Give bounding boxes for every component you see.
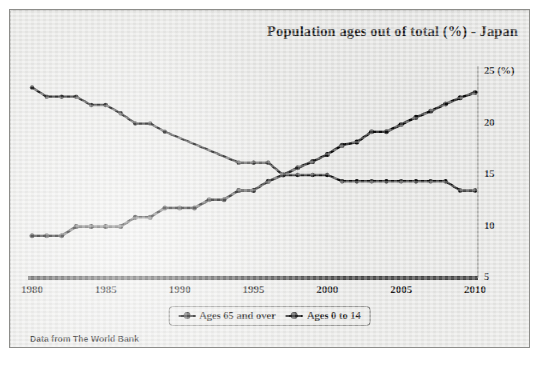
data-point <box>74 224 79 229</box>
data-point <box>45 95 49 99</box>
x-axis-tick-label: 1990 <box>169 283 191 295</box>
data-point <box>59 95 63 99</box>
data-point <box>310 159 315 164</box>
line-marker-icon <box>286 311 303 320</box>
data-point <box>44 233 49 238</box>
data-point <box>473 188 477 192</box>
legend-item-ages-0-to-14[interactable]: Ages 0 to 14 <box>286 310 361 321</box>
data-point <box>384 129 389 134</box>
data-point <box>192 205 197 210</box>
data-point <box>325 152 330 157</box>
data-point <box>59 233 64 238</box>
data-point <box>458 95 463 100</box>
data-point <box>399 179 403 183</box>
data-point <box>310 173 314 177</box>
legend-label: Ages 0 to 14 <box>307 310 361 321</box>
data-point <box>118 224 123 229</box>
data-point <box>163 130 167 134</box>
chart-legend[interactable]: Ages 65 and over Ages 0 to 14 <box>168 306 371 326</box>
data-point <box>266 179 271 184</box>
data-point <box>413 115 418 120</box>
data-point <box>325 173 329 177</box>
data-point <box>369 179 373 183</box>
data-series <box>30 85 478 238</box>
data-point <box>266 160 270 164</box>
y-axis-tick-label: 15 <box>484 168 495 179</box>
x-axis-tick-label: 2000 <box>316 283 338 295</box>
data-point <box>251 188 256 193</box>
axes <box>28 66 478 278</box>
data-point <box>148 121 152 125</box>
data-point <box>369 129 374 134</box>
data-point <box>399 122 404 127</box>
data-point <box>74 95 78 99</box>
data-point <box>414 179 418 183</box>
data-point <box>89 103 93 107</box>
x-axis-tick-label: 1985 <box>95 283 117 295</box>
plot-area <box>10 10 529 347</box>
y-axis-tick-label: 25 (%) <box>484 65 515 76</box>
data-point <box>384 179 388 183</box>
legend-label: Ages 65 and over <box>199 310 276 321</box>
data-point <box>443 101 448 106</box>
x-axis-tick-label: 1980 <box>21 283 43 295</box>
legend-item-ages-65-and-over[interactable]: Ages 65 and over <box>178 310 276 321</box>
data-point <box>162 205 167 210</box>
y-axis-tick-label: 5 <box>484 271 489 282</box>
data-point <box>148 215 153 220</box>
chart-title: Population ages out of total (%) - Japan <box>267 23 518 40</box>
data-point <box>207 197 212 202</box>
chart-panel: Population ages out of total (%) - Japan… <box>9 9 530 348</box>
chart-page: Population ages out of total (%) - Japan… <box>0 0 546 367</box>
data-point <box>428 109 433 114</box>
source-note: Data from The World Bank <box>30 334 139 344</box>
data-point <box>473 90 478 95</box>
data-point <box>30 233 35 238</box>
data-point <box>354 140 359 145</box>
line-marker-icon <box>178 311 195 320</box>
data-point <box>236 188 241 193</box>
y-axis-tick-label: 10 <box>484 220 495 231</box>
data-point <box>177 205 182 210</box>
data-point <box>251 160 255 164</box>
series-line <box>32 87 475 190</box>
x-axis-tick-label: 2010 <box>464 283 486 295</box>
data-point <box>30 85 34 89</box>
data-point <box>237 160 241 164</box>
y-axis-tick-label: 20 <box>484 117 495 128</box>
data-point <box>296 173 300 177</box>
x-axis-tick-label: 1995 <box>243 283 265 295</box>
data-point <box>104 103 108 107</box>
data-point <box>295 165 300 170</box>
data-point <box>429 179 433 183</box>
data-point <box>281 173 285 177</box>
x-axis-tick-label: 2005 <box>390 283 412 295</box>
data-point <box>221 197 226 202</box>
data-point <box>118 111 122 115</box>
data-point <box>340 143 345 148</box>
data-point <box>133 121 137 125</box>
data-point <box>133 215 138 220</box>
data-point <box>458 188 462 192</box>
data-point <box>89 224 94 229</box>
data-point <box>443 179 447 183</box>
data-point <box>340 179 344 183</box>
data-point <box>103 224 108 229</box>
data-point <box>355 179 359 183</box>
